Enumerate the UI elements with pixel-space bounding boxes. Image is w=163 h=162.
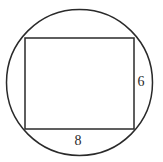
bottom-side-label: 8	[75, 133, 82, 148]
right-side-label: 6	[138, 74, 145, 89]
diagram-canvas: 8 6	[0, 0, 163, 162]
inscribed-rectangle	[25, 38, 134, 129]
